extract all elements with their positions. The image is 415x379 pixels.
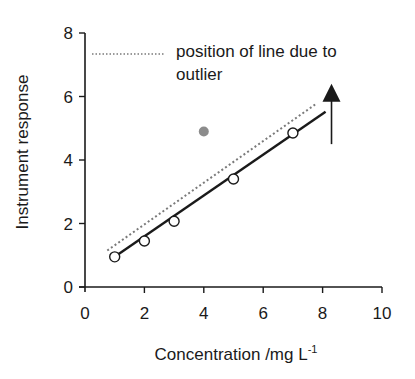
data-point	[110, 252, 120, 262]
x-axis-label-superscript: -1	[308, 343, 318, 355]
legend-label-line1: position of line due to	[176, 42, 337, 61]
data-point	[139, 236, 149, 246]
y-tick-label: 2	[64, 215, 73, 234]
fit-line-dotted	[107, 103, 316, 250]
tick-marks: 024680246810	[64, 24, 392, 323]
annotations	[323, 84, 341, 144]
x-axis-label: Concentration /mg L-1	[155, 343, 318, 364]
calibration-chart: 024680246810 position of line due to out…	[0, 0, 415, 379]
y-tick-label: 6	[64, 88, 73, 107]
data-point	[229, 174, 239, 184]
x-tick-label: 0	[80, 304, 89, 323]
y-tick-label: 4	[64, 151, 73, 170]
y-tick-label: 0	[64, 278, 73, 297]
legend-label-line2: outlier	[176, 65, 223, 84]
data-point	[169, 216, 179, 226]
axes	[79, 33, 382, 292]
y-tick-label: 8	[64, 24, 73, 43]
x-tick-label: 8	[318, 304, 327, 323]
x-axis-label-main: Concentration /mg L	[155, 345, 308, 364]
x-tick-label: 2	[140, 304, 149, 323]
y-axis-label: Instrument response	[13, 75, 32, 230]
data-point	[288, 128, 298, 138]
arrow-up-icon	[323, 84, 341, 102]
outlier-point	[199, 126, 209, 136]
fit-lines	[107, 103, 325, 256]
legend: position of line due to outlier	[92, 42, 337, 84]
x-tick-label: 6	[258, 304, 267, 323]
x-tick-label: 10	[373, 304, 392, 323]
x-tick-label: 4	[199, 304, 208, 323]
